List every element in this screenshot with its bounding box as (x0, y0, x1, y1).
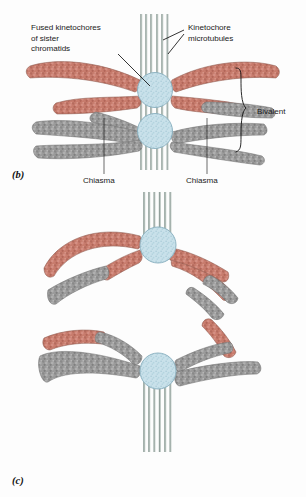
bivalent-label: Bivalent (257, 107, 286, 116)
fused-kinetochore-upper-panel-c (140, 227, 176, 263)
fused-kinetochore-top-panel-b (138, 73, 173, 108)
kinetochore-microtubules-label: Kinetochore microtubules (188, 23, 233, 43)
figure-root: Fused kinetochores of sister chromatids … (0, 0, 306, 497)
fused-kinetochore-bottom-panel-b (138, 114, 173, 149)
panel-letter-c: (c) (12, 475, 24, 487)
panel-letter-b: (b) (12, 169, 24, 181)
chiasma-label-left: Chiasma (83, 176, 115, 185)
chiasma-label-right: Chiasma (186, 176, 218, 185)
meiosis-bivalent-figure: Fused kinetochores of sister chromatids … (0, 0, 306, 497)
fused-kinetochore-lower-panel-c (140, 353, 176, 389)
